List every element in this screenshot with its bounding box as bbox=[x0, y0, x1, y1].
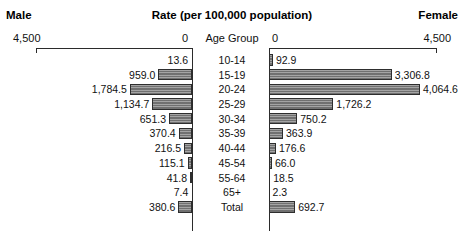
female-row-cell: 4,064.6 bbox=[269, 82, 464, 97]
male-bar bbox=[179, 128, 192, 139]
male-bar bbox=[178, 201, 191, 212]
male-value-label: 41.8 bbox=[167, 172, 187, 184]
female-value-label: 3,306.8 bbox=[395, 69, 430, 81]
right-axis-zero-label: 0 bbox=[272, 32, 278, 44]
female-bar bbox=[269, 157, 271, 168]
male-bar bbox=[184, 143, 191, 154]
pyramid-row: 41.855-6418.5 bbox=[0, 171, 464, 186]
female-row-cell: 18.5 bbox=[269, 171, 464, 186]
age-group-label: 25-29 bbox=[196, 98, 268, 110]
male-bar bbox=[158, 69, 191, 80]
female-bar bbox=[269, 201, 295, 212]
female-row-cell: 66.0 bbox=[269, 156, 464, 171]
pyramid-row: 216.540-44176.6 bbox=[0, 141, 464, 156]
male-value-label: 959.0 bbox=[129, 69, 155, 81]
pyramid-row: 1,784.520-244,064.6 bbox=[0, 82, 464, 97]
male-row-cell: 115.1 bbox=[0, 156, 192, 171]
pyramid-rows: 13.610-1492.9959.015-193,306.81,784.520-… bbox=[0, 53, 464, 215]
age-group-label: 15-19 bbox=[196, 69, 268, 81]
male-value-label: 1,784.5 bbox=[92, 83, 127, 95]
female-bar bbox=[269, 128, 282, 139]
pyramid-row: 370.435-39363.9 bbox=[0, 126, 464, 141]
left-axis-zero-label: 0 bbox=[182, 32, 188, 44]
pyramid-row: 115.145-5466.0 bbox=[0, 156, 464, 171]
age-group-label: 20-24 bbox=[196, 83, 268, 95]
female-row-cell: 363.9 bbox=[269, 126, 464, 141]
male-value-label: 13.6 bbox=[168, 54, 188, 66]
female-value-label: 2.3 bbox=[273, 186, 288, 198]
right-axis-max-label: 4,500 bbox=[423, 32, 451, 44]
age-group-label: 40-44 bbox=[196, 142, 268, 154]
male-row-cell: 13.6 bbox=[0, 53, 192, 68]
female-row-cell: 176.6 bbox=[269, 141, 464, 156]
age-group-label: 55-64 bbox=[196, 172, 268, 184]
age-group-label: 30-34 bbox=[196, 113, 268, 125]
male-row-cell: 1,784.5 bbox=[0, 82, 192, 97]
male-value-label: 651.3 bbox=[140, 113, 166, 125]
pyramid-row: 651.330-34750.2 bbox=[0, 112, 464, 127]
male-value-label: 115.1 bbox=[159, 157, 185, 169]
female-header-label: Female bbox=[418, 9, 458, 21]
male-bar bbox=[130, 84, 192, 95]
female-bar bbox=[269, 69, 391, 80]
male-bar bbox=[190, 172, 192, 183]
left-axis-max-label: 4,500 bbox=[13, 32, 41, 44]
male-value-label: 1,134.7 bbox=[114, 98, 149, 110]
pyramid-row: 380.6Total692.7 bbox=[0, 200, 464, 215]
male-bar bbox=[152, 98, 191, 109]
female-row-cell: 2.3 bbox=[269, 185, 464, 200]
female-value-label: 692.7 bbox=[298, 201, 324, 213]
age-group-label: 65+ bbox=[196, 186, 268, 198]
female-value-label: 176.6 bbox=[279, 142, 305, 154]
female-value-label: 92.9 bbox=[276, 54, 296, 66]
pyramid-row: 1,134.725-291,726.2 bbox=[0, 97, 464, 112]
age-group-label: 10-14 bbox=[196, 54, 268, 66]
female-bar bbox=[269, 54, 272, 65]
male-row-cell: 959.0 bbox=[0, 68, 192, 83]
female-bar bbox=[269, 84, 419, 95]
female-value-label: 18.5 bbox=[273, 172, 293, 184]
female-value-label: 66.0 bbox=[275, 157, 295, 169]
male-bar bbox=[188, 157, 192, 168]
male-row-cell: 370.4 bbox=[0, 126, 192, 141]
pyramid-row: 13.610-1492.9 bbox=[0, 53, 464, 68]
male-value-label: 380.6 bbox=[149, 201, 175, 213]
male-row-cell: 216.5 bbox=[0, 141, 192, 156]
pyramid-row: 7.465+2.3 bbox=[0, 185, 464, 200]
age-group-label: 45-54 bbox=[196, 157, 268, 169]
female-value-label: 363.9 bbox=[286, 127, 312, 139]
male-row-cell: 7.4 bbox=[0, 185, 192, 200]
female-value-label: 1,726.2 bbox=[336, 98, 371, 110]
male-value-label: 7.4 bbox=[174, 186, 189, 198]
chart-title: Rate (per 100,000 population) bbox=[0, 9, 464, 21]
female-row-cell: 1,726.2 bbox=[269, 97, 464, 112]
female-bar bbox=[269, 98, 333, 109]
male-row-cell: 1,134.7 bbox=[0, 97, 192, 112]
pyramid-row: 959.015-193,306.8 bbox=[0, 68, 464, 83]
female-row-cell: 92.9 bbox=[269, 53, 464, 68]
female-bar bbox=[269, 113, 297, 124]
male-value-label: 370.4 bbox=[149, 127, 175, 139]
male-row-cell: 380.6 bbox=[0, 200, 192, 215]
female-value-label: 750.2 bbox=[300, 113, 326, 125]
female-row-cell: 692.7 bbox=[269, 200, 464, 215]
female-value-label: 4,064.6 bbox=[423, 83, 458, 95]
age-group-label: 35-39 bbox=[196, 127, 268, 139]
female-row-cell: 750.2 bbox=[269, 112, 464, 127]
age-group-column-header: Age Group bbox=[196, 32, 268, 44]
female-bar bbox=[269, 143, 276, 154]
female-row-cell: 3,306.8 bbox=[269, 68, 464, 83]
male-row-cell: 651.3 bbox=[0, 112, 192, 127]
male-row-cell: 41.8 bbox=[0, 171, 192, 186]
male-bar bbox=[169, 113, 192, 124]
age-group-label: Total bbox=[196, 201, 268, 213]
male-value-label: 216.5 bbox=[155, 142, 181, 154]
